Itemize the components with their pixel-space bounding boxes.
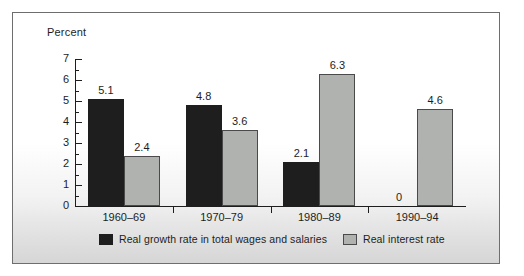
bar-value-label: 2.4 bbox=[118, 141, 166, 153]
y-tick-minor bbox=[75, 133, 79, 134]
chart-legend: Real growth rate in total wages and sala… bbox=[13, 232, 501, 252]
x-axis-category-label: 1990–94 bbox=[368, 211, 466, 224]
y-tick-label: 2 bbox=[43, 158, 69, 169]
bar bbox=[283, 162, 319, 206]
y-axis-title: Percent bbox=[47, 26, 86, 38]
y-tick-major bbox=[75, 122, 82, 123]
legend-item[interactable]: Real growth rate in total wages and sala… bbox=[99, 232, 327, 246]
y-tick-label: 5 bbox=[43, 95, 69, 106]
y-tick-label: 7 bbox=[43, 53, 69, 64]
bar-value-label: 5.1 bbox=[82, 84, 130, 96]
y-tick-major bbox=[75, 59, 82, 60]
legend-item[interactable]: Real interest rate bbox=[343, 232, 445, 246]
y-tick-label: 3 bbox=[43, 137, 69, 148]
y-tick-label: 4 bbox=[43, 116, 69, 127]
bar-value-label: 4.6 bbox=[411, 94, 459, 106]
y-tick-label: 0 bbox=[43, 200, 69, 211]
y-tick-minor bbox=[75, 196, 79, 197]
chart-screenshot: Percent 01234567 5.12.44.83.62.16.304.6 … bbox=[0, 0, 524, 276]
bar bbox=[417, 109, 453, 206]
legend-swatch-dark bbox=[99, 234, 113, 245]
bar-value-label: 3.6 bbox=[216, 115, 264, 127]
y-tick-label: 1 bbox=[43, 179, 69, 190]
y-tick-minor bbox=[75, 91, 79, 92]
y-tick-major bbox=[75, 101, 82, 102]
x-axis-category-label: 1960–69 bbox=[75, 211, 173, 224]
y-tick-minor bbox=[75, 154, 79, 155]
bar bbox=[319, 74, 355, 206]
legend-label: Real interest rate bbox=[363, 233, 445, 245]
y-tick-major bbox=[75, 143, 82, 144]
legend-swatch-light bbox=[343, 234, 357, 245]
y-tick-major bbox=[75, 80, 82, 81]
y-tick-major bbox=[75, 185, 82, 186]
y-tick-label: 6 bbox=[43, 74, 69, 85]
y-tick-major bbox=[75, 164, 82, 165]
x-axis-category-label: 1980–89 bbox=[271, 211, 369, 224]
y-tick-minor bbox=[75, 112, 79, 113]
plot-area: Percent 01234567 5.12.44.83.62.16.304.6 … bbox=[13, 13, 501, 265]
bar bbox=[124, 156, 160, 206]
y-tick-minor bbox=[75, 175, 79, 176]
y-tick-minor bbox=[75, 70, 79, 71]
bar-value-label: 6.3 bbox=[313, 59, 361, 71]
bar bbox=[222, 130, 258, 206]
legend-label: Real growth rate in total wages and sala… bbox=[119, 233, 327, 245]
bar-value-label: 0 bbox=[375, 191, 423, 203]
bar-value-label: 2.1 bbox=[277, 147, 325, 159]
bar-value-label: 4.8 bbox=[180, 90, 228, 102]
y-tick-major bbox=[75, 206, 82, 207]
x-axis-category-label: 1970–79 bbox=[173, 211, 271, 224]
chart-panel: Percent 01234567 5.12.44.83.62.16.304.6 … bbox=[12, 12, 500, 264]
